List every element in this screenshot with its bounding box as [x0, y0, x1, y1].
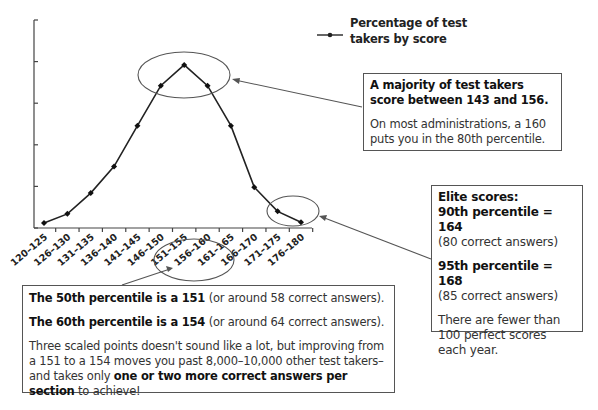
- arrowhead-icon: [232, 78, 240, 84]
- body-text-post: to achieve!: [75, 384, 141, 398]
- arrow-elite: [322, 217, 431, 259]
- p60-note: (or around 64 correct answers).: [205, 315, 384, 329]
- elite-95th: 95th percentile = 168: [438, 259, 553, 288]
- elite-90th: 90th percentile = 164: [438, 205, 553, 234]
- top-scores-highlight-ellipse: [267, 196, 319, 226]
- majority-note: On most administrations, a 160 puts you …: [370, 117, 555, 147]
- p50-note: (or around 58 correct answers).: [205, 291, 384, 305]
- elite-scores-callout-box: Elite scores: 90th percentile = 164 (80 …: [431, 185, 583, 332]
- chart-axes: [34, 20, 313, 232]
- arrow-percentile: [122, 269, 170, 285]
- arrowhead-icon: [166, 266, 173, 272]
- p60-headline: The 60th percentile is a 154: [29, 315, 205, 329]
- arrow-majority: [235, 80, 362, 107]
- legend-marker: [317, 33, 343, 38]
- elite-perfect-note: There are fewer than 100 perfect scores …: [438, 313, 576, 358]
- elite-95th-note: (85 correct answers): [438, 289, 576, 304]
- elite-90th-note: (80 correct answers): [438, 235, 576, 250]
- peak-highlight-ellipse: [138, 52, 230, 98]
- p50-headline: The 50th percentile is a 151: [29, 291, 205, 305]
- majority-callout-box: A majority of test takers score between …: [363, 73, 562, 151]
- data-point-marker: [298, 219, 304, 225]
- chart-legend: Percentage of test takers by score: [350, 15, 470, 47]
- series-line: [44, 65, 301, 223]
- legend-label-line2: takers by score: [350, 31, 470, 47]
- percentile-callout-box: The 50th percentile is a 151 (or around …: [22, 285, 395, 393]
- data-point-marker: [41, 220, 47, 226]
- majority-headline: A majority of test takers score between …: [370, 78, 548, 107]
- elite-title: Elite scores:: [438, 190, 518, 204]
- x-axis-labels: 120–125126–130131–135136–140141–145146–1…: [8, 231, 306, 268]
- arrowhead-icon: [319, 215, 327, 221]
- legend-label-line1: Percentage of test: [350, 15, 470, 31]
